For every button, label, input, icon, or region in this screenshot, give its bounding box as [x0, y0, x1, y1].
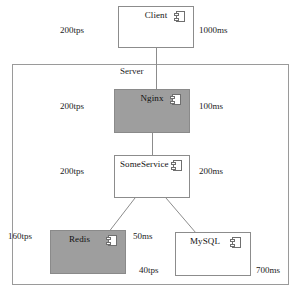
label-nginx-latency: 100ms [199, 101, 223, 111]
label-nginx-tps: 200tps [60, 101, 84, 111]
component-diagram: Server Client Nginx SomeService Redis My… [0, 0, 299, 297]
label-redis-latency: 50ms [133, 231, 153, 241]
component-icon [232, 237, 241, 248]
label-client-tps: 200tps [60, 25, 84, 35]
server-boundary-label: Server [120, 66, 144, 76]
component-icon [108, 235, 117, 246]
label-redis-tps: 160tps [8, 231, 32, 241]
label-someservice-tps: 200tps [60, 166, 84, 176]
label-mysql-tps: 40tps [139, 265, 159, 275]
component-icon [172, 94, 181, 105]
node-redis[interactable]: Redis [50, 230, 126, 274]
label-someservice-latency: 200ms [199, 166, 223, 176]
component-icon [176, 11, 185, 22]
node-someservice[interactable]: SomeService [114, 155, 190, 198]
label-mysql-latency: 700ms [256, 265, 280, 275]
node-client[interactable]: Client [118, 6, 194, 48]
node-mysql-label: MySQL [190, 236, 250, 246]
node-mysql[interactable]: MySQL [175, 232, 251, 276]
node-nginx[interactable]: Nginx [114, 89, 190, 133]
component-icon [173, 160, 182, 171]
label-client-latency: 1000ms [199, 25, 228, 35]
